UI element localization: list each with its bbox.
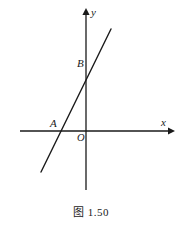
figure-caption: 图1.50 (0, 203, 182, 219)
y-axis-label: y (91, 7, 96, 18)
figure-container: y x B A O 图1.50 (0, 0, 182, 230)
point-label-b: B (77, 58, 84, 69)
x-axis-label: x (161, 117, 166, 128)
x-axis (20, 127, 175, 134)
linear-function-line (41, 29, 111, 172)
origin-label: O (77, 133, 85, 144)
caption-number: 1.50 (88, 206, 109, 218)
caption-tag-character: 图 (73, 206, 85, 218)
arrow-up-icon (82, 8, 89, 15)
point-label-a: A (50, 118, 57, 129)
coordinate-diagram (0, 0, 182, 230)
y-axis (82, 8, 89, 190)
arrow-right-icon (168, 127, 175, 134)
